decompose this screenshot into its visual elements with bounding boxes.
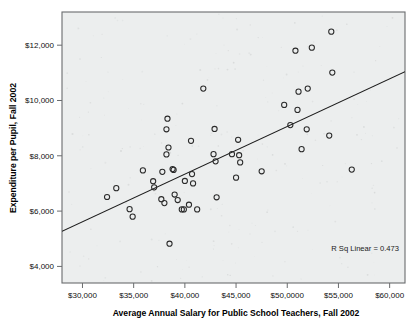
x-tick-label: $40,000 (170, 291, 199, 300)
texture-speck (323, 133, 324, 134)
texture-speck (198, 145, 200, 147)
texture-speck (77, 27, 79, 29)
texture-speck (104, 162, 106, 164)
texture-speck (366, 101, 367, 102)
texture-speck (141, 120, 142, 121)
texture-speck (231, 243, 233, 245)
y-tick-label: $10,000 (25, 96, 54, 105)
texture-speck (119, 241, 121, 243)
texture-speck (117, 20, 119, 22)
texture-speck (322, 15, 323, 16)
texture-speck (334, 221, 336, 223)
texture-speck (151, 239, 153, 241)
texture-speck (143, 104, 144, 105)
texture-speck (143, 146, 144, 147)
r-squared-annotation: R Sq Linear = 0.473 (331, 244, 399, 253)
texture-speck (114, 17, 116, 19)
texture-speck (221, 134, 223, 136)
x-tick-label: $50,0000 (271, 291, 305, 300)
scatter-plot-figure: $4,000$6,000$8,000$10,000$12,000 $30,000… (0, 0, 419, 323)
texture-speck (266, 211, 268, 213)
texture-speck (372, 135, 373, 136)
texture-speck (213, 240, 215, 242)
x-tick-label: $30,000 (68, 291, 97, 300)
texture-speck (66, 88, 67, 89)
texture-speck (351, 117, 352, 118)
texture-speck (129, 146, 130, 147)
texture-speck (267, 146, 268, 147)
texture-speck (239, 53, 241, 55)
texture-speck (227, 274, 229, 276)
texture-speck (373, 185, 374, 186)
y-tick-label: $8,000 (30, 152, 55, 161)
texture-speck (228, 232, 229, 233)
texture-speck (184, 44, 185, 45)
texture-speck (128, 109, 129, 110)
texture-speck (122, 79, 123, 80)
texture-speck (217, 208, 218, 209)
texture-speck (140, 103, 141, 104)
texture-speck (79, 117, 80, 118)
texture-speck (284, 261, 285, 262)
texture-speck (263, 80, 264, 81)
texture-speck (214, 68, 215, 69)
texture-speck (71, 204, 72, 205)
texture-speck (82, 135, 83, 136)
texture-speck (315, 139, 317, 141)
texture-speck (321, 65, 322, 66)
texture-speck (154, 134, 155, 135)
y-tick-label: $6,000 (30, 207, 55, 216)
texture-speck (302, 65, 303, 66)
texture-speck (157, 266, 158, 267)
texture-speck (257, 158, 258, 159)
texture-speck (374, 262, 375, 263)
texture-speck (307, 134, 308, 135)
texture-speck (272, 275, 273, 276)
texture-speck (236, 18, 237, 19)
texture-speck (284, 163, 286, 165)
texture-speck (393, 127, 395, 129)
texture-speck (166, 35, 167, 36)
texture-speck (79, 265, 80, 266)
texture-speck (125, 202, 127, 204)
texture-speck (274, 231, 276, 233)
texture-speck (255, 225, 256, 226)
texture-speck (353, 71, 354, 72)
texture-speck (339, 257, 340, 258)
x-tick-label: $35,000 (119, 291, 148, 300)
texture-speck (379, 46, 380, 47)
texture-speck (191, 145, 193, 147)
texture-speck (365, 133, 366, 134)
texture-speck (250, 24, 251, 25)
texture-speck (229, 225, 231, 227)
texture-speck (330, 120, 331, 121)
texture-speck (311, 193, 312, 194)
texture-speck (69, 251, 71, 253)
texture-speck (265, 97, 266, 98)
texture-speck (278, 110, 279, 111)
texture-speck (88, 258, 89, 259)
texture-speck (236, 177, 237, 178)
texture-speck (330, 205, 331, 206)
texture-speck (312, 101, 314, 103)
texture-speck (267, 101, 268, 102)
texture-speck (222, 204, 223, 205)
texture-speck (228, 50, 229, 51)
texture-speck (221, 215, 223, 217)
texture-speck (267, 209, 268, 210)
texture-speck (207, 79, 208, 80)
y-tick-label: $12,000 (25, 41, 54, 50)
texture-speck (80, 149, 81, 150)
texture-speck (302, 178, 303, 179)
texture-speck (213, 249, 214, 250)
texture-speck (292, 226, 294, 228)
texture-speck (129, 177, 130, 178)
texture-speck (90, 168, 91, 169)
texture-speck (155, 193, 157, 195)
texture-speck (79, 58, 81, 60)
texture-speck (374, 192, 376, 194)
texture-speck (294, 22, 296, 24)
texture-speck (182, 103, 184, 105)
texture-speck (182, 269, 183, 270)
texture-speck (188, 266, 190, 268)
